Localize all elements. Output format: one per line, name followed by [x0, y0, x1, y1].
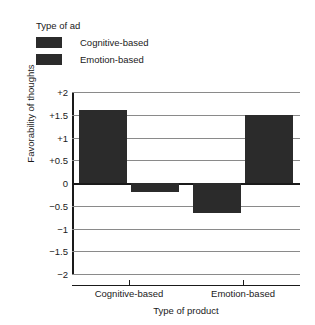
bar [131, 183, 179, 192]
chart-legend: Type of ad Cognitive-based Emotion-based [36, 20, 256, 69]
y-tick-label: +2 [57, 87, 68, 98]
legend-swatch-emotion-based [36, 54, 62, 65]
plot-area: +2+1.5+1+0.50−0.5−1−1.5−2 [72, 92, 300, 274]
y-tick-label: +1.5 [49, 109, 68, 120]
bar [79, 110, 127, 183]
legend-label-cognitive-based: Cognitive-based [80, 37, 149, 48]
bar [193, 183, 241, 213]
x-axis-title: Type of product [72, 305, 300, 316]
y-tick-label: +0.5 [49, 155, 68, 166]
legend-label-emotion-based: Emotion-based [80, 54, 144, 65]
y-tick-label: −1.5 [49, 246, 68, 257]
y-tick-label: +1 [57, 132, 68, 143]
gridline [72, 206, 300, 207]
x-tick-label: Emotion-based [211, 288, 275, 299]
x-tick-mark [243, 280, 244, 285]
legend-swatch-cognitive-based [36, 37, 62, 48]
gridline [72, 251, 300, 252]
bar [245, 115, 293, 183]
x-tick-label: Cognitive-based [95, 288, 164, 299]
legend-title: Type of ad [36, 20, 256, 32]
gridline [72, 274, 300, 275]
legend-item-cognitive-based: Cognitive-based [36, 35, 256, 50]
y-tick-label: −1 [57, 223, 68, 234]
x-tick-mark [129, 280, 130, 285]
gridline [72, 229, 300, 230]
gridline [72, 92, 300, 93]
y-tick-label: −2 [57, 269, 68, 280]
chart-figure: Type of ad Cognitive-based Emotion-based… [0, 0, 315, 325]
y-tick-label: 0 [63, 178, 68, 189]
y-axis-title: Favorability of thoughts [25, 29, 36, 199]
y-tick-label: −0.5 [49, 200, 68, 211]
zero-line [72, 183, 300, 185]
x-axis-line [72, 285, 300, 286]
legend-item-emotion-based: Emotion-based [36, 52, 256, 67]
